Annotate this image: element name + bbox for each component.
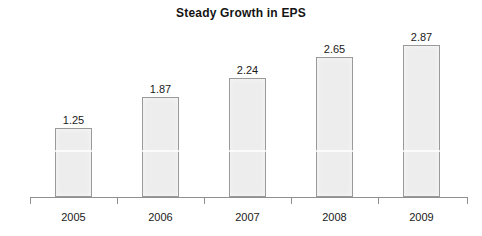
bar-value-label: 1.25 bbox=[30, 114, 117, 126]
bar-value-label: 1.87 bbox=[117, 83, 204, 95]
plot-area: 1.25 2005 1.87 2006 2.24 2007 2.65 2008 … bbox=[0, 0, 482, 236]
bar-2008[interactable] bbox=[316, 57, 353, 197]
x-axis-tick bbox=[291, 197, 292, 204]
x-axis-tick bbox=[467, 197, 468, 204]
category-label-2009: 2009 bbox=[378, 211, 465, 223]
category-label-2005: 2005 bbox=[30, 211, 117, 223]
category-label-2007: 2007 bbox=[204, 211, 291, 223]
x-axis-tick bbox=[117, 197, 118, 204]
category-label-2006: 2006 bbox=[117, 211, 204, 223]
bar-2009[interactable] bbox=[403, 45, 440, 197]
bar-value-label: 2.24 bbox=[204, 64, 291, 76]
eps-bar-chart: Steady Growth in EPS 1.25 2005 1.87 2006… bbox=[0, 0, 482, 236]
x-axis-line bbox=[30, 197, 468, 198]
x-axis-tick bbox=[378, 197, 379, 204]
bar-value-label: 2.87 bbox=[378, 31, 465, 43]
bar-2007[interactable] bbox=[229, 78, 266, 197]
category-label-2008: 2008 bbox=[291, 211, 378, 223]
bar-2005[interactable] bbox=[55, 128, 92, 197]
x-axis-tick bbox=[30, 197, 31, 204]
bar-value-label: 2.65 bbox=[291, 43, 378, 55]
bar-2006[interactable] bbox=[142, 97, 179, 197]
x-axis-tick bbox=[204, 197, 205, 204]
